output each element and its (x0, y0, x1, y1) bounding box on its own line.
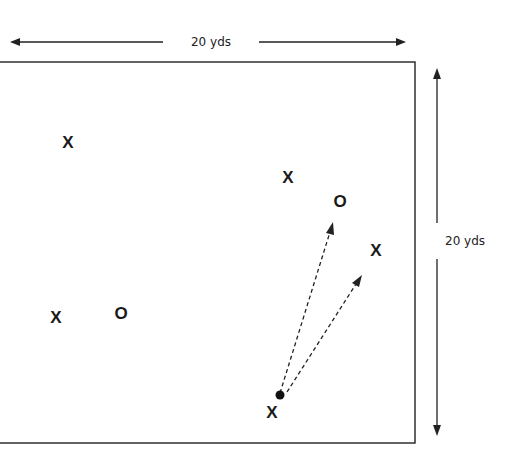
width-dimension: 20 yds (10, 35, 406, 49)
arrow-right-icon (396, 38, 406, 46)
player-x: X (50, 308, 62, 327)
height-dimension: 20 yds (433, 68, 485, 436)
players: XXOXXOX (50, 133, 382, 422)
player-x: X (266, 403, 278, 422)
player-x: X (370, 241, 382, 260)
field-diagram: 20 yds 20 yds XXOXXOX (0, 0, 507, 467)
player-o: O (333, 192, 346, 211)
arrow-down-icon (433, 425, 441, 436)
ball-icon (276, 391, 285, 400)
arrowhead-icon (352, 275, 362, 287)
width-label: 20 yds (191, 35, 231, 49)
player-o: O (114, 304, 127, 323)
arrow-left-icon (10, 38, 20, 46)
player-x: X (282, 168, 294, 187)
player-x: X (62, 133, 74, 152)
height-label: 20 yds (445, 234, 485, 248)
arrowhead-icon (326, 222, 334, 235)
pass-arrows (280, 222, 362, 393)
field-boundary (0, 62, 415, 443)
arrow-up-icon (433, 68, 441, 79)
pass-arrow (280, 232, 330, 393)
